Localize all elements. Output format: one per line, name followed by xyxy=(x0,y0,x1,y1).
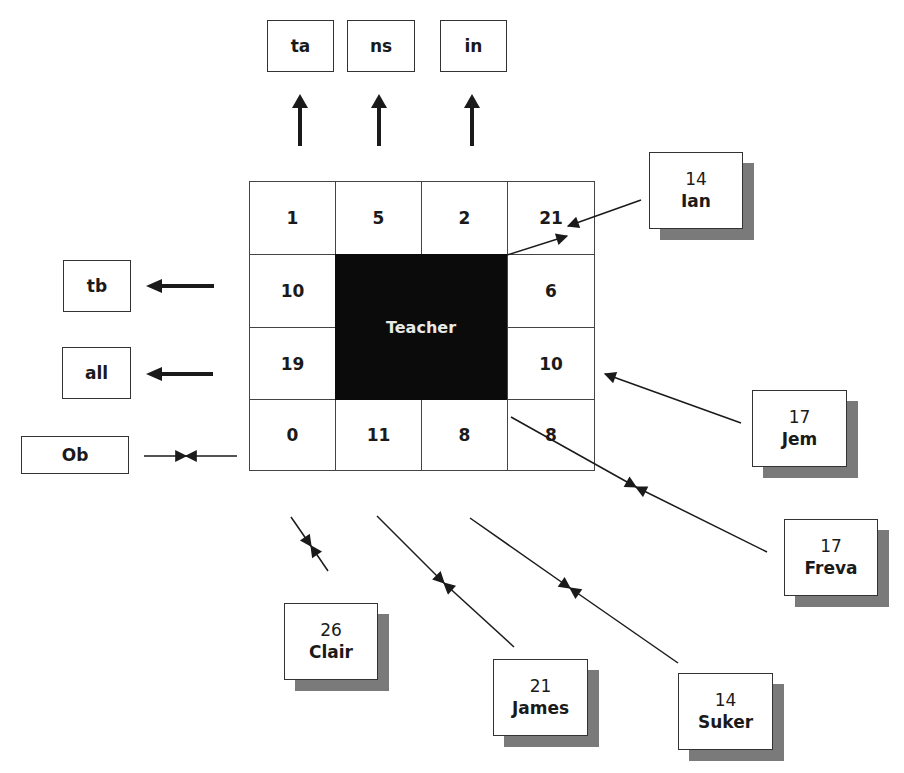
seat-count: 11 xyxy=(367,425,391,445)
student-box-james: 21 James xyxy=(493,659,588,736)
meeting-arrows-clair-icon xyxy=(291,517,328,571)
meeting-arrows-suker-icon xyxy=(470,518,678,663)
meeting-arrows-james-icon xyxy=(377,516,514,647)
category-label: ns xyxy=(370,36,392,56)
teacher-block: Teacher xyxy=(335,254,507,400)
seat-cell: 8 xyxy=(507,399,595,471)
seat-count: 0 xyxy=(287,425,299,445)
category-label: tb xyxy=(87,276,107,296)
category-box-in: in xyxy=(440,20,507,72)
seat-cell: 6 xyxy=(507,254,595,328)
seat-cell: 0 xyxy=(249,399,336,471)
seat-cell: 11 xyxy=(335,399,422,471)
arrow-up-icon xyxy=(371,94,387,146)
student-card: 26 Clair xyxy=(284,603,378,680)
arrow-left-icon xyxy=(146,367,213,381)
category-box-all: all xyxy=(62,347,131,399)
student-card: 14 Ian xyxy=(649,152,743,229)
arrow-up-icon xyxy=(292,94,308,146)
seat-cell: 8 xyxy=(421,399,508,471)
seat-count: 8 xyxy=(545,425,557,445)
student-name: Jem xyxy=(782,429,818,450)
category-label: all xyxy=(85,363,108,383)
student-count: 17 xyxy=(789,407,811,428)
seating-grid: 1 5 2 21 10 6 19 10 0 11 8 8 Teacher xyxy=(249,181,595,471)
seat-count: 5 xyxy=(373,208,385,228)
student-card: 17 Freva xyxy=(784,519,878,596)
seat-count: 10 xyxy=(539,354,563,374)
seat-count: 19 xyxy=(281,354,305,374)
category-box-ta: ta xyxy=(267,20,334,72)
student-box-jem: 17 Jem xyxy=(752,390,847,467)
student-name: Clair xyxy=(309,642,353,663)
student-count: 21 xyxy=(530,676,552,697)
seat-cell: 5 xyxy=(335,181,422,255)
student-box-suker: 14 Suker xyxy=(678,673,773,750)
seat-count: 2 xyxy=(459,208,471,228)
student-box-ian: 14 Ian xyxy=(649,152,743,229)
student-count: 14 xyxy=(685,169,707,190)
category-box-ns: ns xyxy=(347,20,415,72)
student-name: Suker xyxy=(698,712,753,733)
student-count: 26 xyxy=(320,620,342,641)
seat-count: 10 xyxy=(281,281,305,301)
student-card: 17 Jem xyxy=(752,390,847,467)
seat-cell: 19 xyxy=(249,327,336,400)
arrow-left-icon xyxy=(146,279,214,293)
student-name: James xyxy=(512,698,569,719)
category-label: in xyxy=(465,36,483,56)
seat-count: 1 xyxy=(287,208,299,228)
category-label: Ob xyxy=(62,445,89,465)
teacher-label: Teacher xyxy=(386,318,456,337)
seat-cell: 21 xyxy=(507,181,595,255)
category-box-ob: Ob xyxy=(21,436,129,474)
category-label: ta xyxy=(291,36,311,56)
seat-cell: 10 xyxy=(249,254,336,328)
student-card: 14 Suker xyxy=(678,673,773,750)
category-box-tb: tb xyxy=(63,260,131,312)
seat-cell: 1 xyxy=(249,181,336,255)
student-box-clair: 26 Clair xyxy=(284,603,378,680)
student-name: Freva xyxy=(805,558,858,579)
seat-count: 6 xyxy=(545,281,557,301)
student-name: Ian xyxy=(681,191,711,212)
seat-cell: 2 xyxy=(421,181,508,255)
arrow-jem-to-seat-icon xyxy=(605,374,741,423)
seat-count: 21 xyxy=(539,208,563,228)
seat-cell: 10 xyxy=(507,327,595,400)
student-count: 17 xyxy=(820,536,842,557)
arrow-up-icon xyxy=(464,94,480,146)
student-count: 14 xyxy=(715,690,737,711)
student-card: 21 James xyxy=(493,659,588,736)
seat-count: 8 xyxy=(459,425,471,445)
student-box-freva: 17 Freva xyxy=(784,519,878,596)
